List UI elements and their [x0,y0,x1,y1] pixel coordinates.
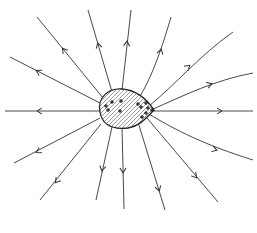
field-line-left-lower [14,118,100,163]
field-line-path [122,127,124,209]
hatch-line [151,85,201,135]
field-line-path [140,17,171,96]
field-line-right-curve-1 [149,32,233,106]
field-line-up-right-curve [140,17,171,96]
arrowhead-icon [53,177,61,185]
field-line-up-2 [122,10,131,90]
field-line-lower-2 [96,127,112,200]
hatch-line [167,85,217,135]
field-line-diagram [0,0,257,233]
hatch-line [155,85,205,135]
field-line-lower-left [40,124,101,200]
field-line-path [40,124,101,200]
hatch-line [163,85,213,135]
field-line-path [14,118,100,163]
field-line-path [88,10,112,92]
hatch-line [159,85,209,135]
field-line-path [149,32,233,106]
field-line-up-1 [88,10,112,92]
field-line-upper-left-2 [37,17,103,98]
field-line-path [10,57,100,103]
field-line-lower-1 [120,127,126,209]
field-line-path [122,10,131,90]
field-line-path [37,17,103,98]
hatch-line [171,85,221,135]
field-line-upper-left-1 [10,57,100,103]
arrowhead-icon [184,63,192,71]
field-line-path [149,114,253,160]
field-line-right-horizontal [151,108,253,114]
field-line-path [151,73,253,110]
field-line-right-curve-2 [151,73,253,110]
arrowhead-icon [157,48,164,54]
field-line-path [96,127,112,200]
field-line-left-horizontal [5,108,100,114]
arrowhead-icon [99,165,106,171]
field-line-right-lower-curve [149,114,253,160]
